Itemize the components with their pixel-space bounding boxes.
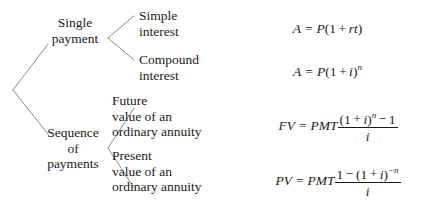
formula-2-open: (1: [325, 64, 336, 79]
formula-2-equals: =: [301, 64, 317, 79]
formula-4-num-open: (1: [356, 166, 367, 181]
node-future-value-line-1: Future: [112, 93, 202, 109]
single-payment-branch-lower-line: [108, 38, 134, 60]
formula-4-denominator: i: [335, 183, 401, 199]
node-compound-interest: Compound interest: [139, 52, 199, 83]
node-simple-interest: Simple interest: [139, 8, 179, 39]
formula-4-numerator: 1−(1+i)−n: [335, 163, 401, 184]
formula-4-num-plus: +: [367, 166, 380, 181]
node-future-value-line-2: value of an: [112, 109, 202, 125]
diagram-canvas: Single payment Sequence of payments Simp…: [0, 0, 426, 203]
formula-1-coef: P: [317, 21, 325, 36]
formula-1-lhs: A: [293, 21, 301, 36]
formula-3-num-plus: +: [351, 111, 364, 126]
formula-1-close: ): [358, 21, 363, 36]
node-single-payment-line-2: payment: [46, 31, 104, 47]
node-sequence-line-2: of: [40, 141, 106, 157]
node-sequence-line-3: payments: [40, 156, 106, 172]
formula-1-open: (1: [325, 21, 336, 36]
node-sequence-line-1: Sequence: [40, 125, 106, 141]
node-present-value-line-2: value of an: [112, 164, 202, 180]
node-present-value-line-1: Present: [112, 148, 202, 164]
formula-4-num-exponent: −n: [388, 165, 399, 175]
node-compound-interest-line-1: Compound: [139, 52, 199, 68]
formula-4-coef: PMT: [308, 173, 335, 189]
node-simple-interest-line-1: Simple: [139, 8, 179, 24]
formula-4-lhs: PV: [275, 173, 292, 189]
node-simple-interest-line-2: interest: [139, 24, 179, 40]
formula-3-equals: =: [295, 118, 311, 134]
formula-2-plus: +: [336, 64, 349, 79]
node-future-value-annuity: Future value of an ordinary annuity: [112, 93, 202, 140]
single-payment-branch-upper-line: [108, 16, 134, 38]
formula-future-value: FV=PMT(1+i)n−1i: [250, 108, 426, 145]
formula-4-equals: =: [292, 173, 308, 189]
node-sequence-of-payments: Sequence of payments: [40, 125, 106, 172]
node-future-value-line-3: ordinary annuity: [112, 124, 202, 140]
formula-1-equals: =: [301, 21, 317, 36]
formula-3-lhs: FV: [278, 118, 295, 134]
formula-3-denominator: i: [338, 128, 398, 144]
formula-3-numerator: (1+i)n−1: [338, 108, 398, 129]
node-present-value-annuity: Present value of an ordinary annuity: [112, 148, 202, 195]
formula-3-num-open: (1: [340, 111, 351, 126]
formula-4-fraction: 1−(1+i)−ni: [335, 163, 401, 200]
formula-simple-interest: A=P(1+rt): [255, 21, 400, 37]
formula-present-value: PV=PMT1−(1+i)−ni: [250, 163, 426, 200]
node-present-value-line-3: ordinary annuity: [112, 179, 202, 195]
formula-3-coef: PMT: [311, 118, 338, 134]
formula-3-fraction: (1+i)n−1i: [338, 108, 398, 145]
root-branch-upper-line: [13, 44, 48, 90]
formula-compound-interest: A=P(1+i)n: [255, 62, 400, 80]
formula-3-num-minus: −: [376, 111, 389, 126]
node-single-payment-line-1: Single: [46, 15, 104, 31]
formula-1-plus: +: [336, 21, 349, 36]
node-single-payment: Single payment: [46, 15, 104, 46]
formula-4-num-minus: −: [343, 166, 356, 181]
formula-2-coef: P: [317, 64, 325, 79]
node-compound-interest-line-2: interest: [139, 68, 199, 84]
formula-2-exponent: n: [357, 62, 362, 72]
formula-3-num-one: 1: [389, 111, 396, 126]
